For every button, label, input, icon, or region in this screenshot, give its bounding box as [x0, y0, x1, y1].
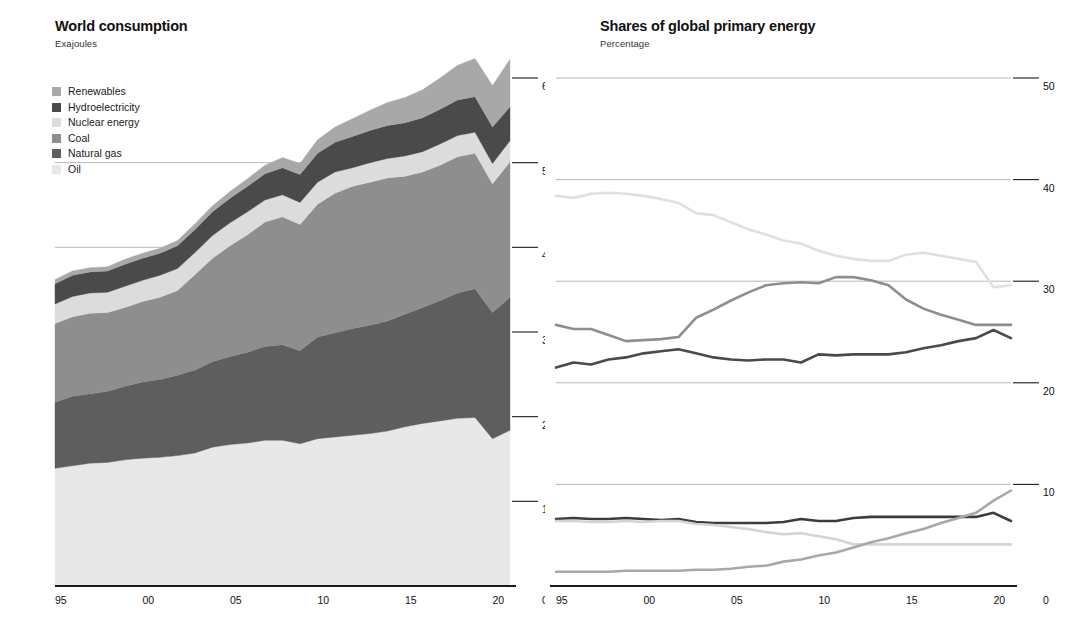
world-consumption-panel: World consumption Exajoules 010020030040… [0, 0, 545, 626]
shares-panel: Shares of global primary energy Percenta… [545, 0, 1090, 626]
x-axis-label: 05 [731, 594, 743, 606]
left-legend-item: Nuclear energy [52, 115, 140, 131]
x-axis-label: 00 [143, 594, 155, 606]
legend-swatch-icon [52, 149, 61, 158]
x-axis-label: 10 [318, 594, 330, 606]
x-axis-label: 20 [493, 594, 505, 606]
x-axis-label: 20 [994, 594, 1006, 606]
left-legend-item: Hydroelectricity [52, 100, 140, 116]
line-coal [556, 277, 1011, 341]
legend-label: Nuclear energy [68, 115, 139, 131]
y-axis-label: 10 [1043, 486, 1055, 498]
legend-label: Natural gas [68, 146, 122, 162]
line-oil [556, 193, 1011, 287]
left-legend-item: Oil [52, 162, 140, 178]
legend-label: Coal [68, 131, 90, 147]
x-axis-label: 10 [819, 594, 831, 606]
legend-swatch-icon [52, 103, 61, 112]
x-axis-label: 00 [644, 594, 656, 606]
legend-swatch-icon [52, 134, 61, 143]
shares-chart: 010203040500950005101520 [545, 0, 1090, 626]
y-axis-label: 50 [1043, 80, 1055, 92]
energy-charts-page: World consumption Exajoules 010020030040… [0, 0, 1090, 626]
x-axis-label: 95 [55, 594, 67, 606]
left-legend-item: Renewables [52, 84, 140, 100]
legend-label: Renewables [68, 84, 126, 100]
left-legend-item: Coal [52, 131, 140, 147]
left-legend: RenewablesHydroelectricityNuclear energy… [52, 84, 140, 177]
legend-swatch-icon [52, 87, 61, 96]
left-legend-item: Natural gas [52, 146, 140, 162]
x-axis-label: 15 [906, 594, 918, 606]
legend-swatch-icon [52, 118, 61, 127]
x-axis-label: 95 [556, 594, 568, 606]
legend-swatch-icon [52, 165, 61, 174]
legend-label: Oil [68, 162, 81, 178]
y-axis-label: 40 [1043, 182, 1055, 194]
y-axis-label: 20 [1043, 385, 1055, 397]
x-axis-label: 05 [230, 594, 242, 606]
line-renewables [556, 491, 1011, 572]
legend-label: Hydroelectricity [68, 100, 140, 116]
x-axis-label: 15 [405, 594, 417, 606]
line-natural-gas [556, 330, 1011, 368]
y-axis-label: 30 [1043, 283, 1055, 295]
line-nuclear-energy [556, 521, 1011, 544]
y-axis-label: 0 [1043, 594, 1049, 606]
